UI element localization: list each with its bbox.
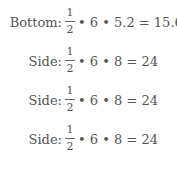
- fraction-bar: [65, 138, 75, 139]
- denominator: 2: [65, 140, 75, 154]
- row-label: Side:: [29, 55, 62, 69]
- denominator: 2: [65, 62, 75, 76]
- row-label: Side:: [29, 133, 62, 147]
- denominator: 2: [65, 101, 75, 115]
- row-label: Side:: [29, 94, 62, 108]
- area-row-bottom: Bottom: 1 2 • 6 • 5.2 = 15.6: [0, 6, 177, 42]
- row-expression: • 6 • 8 = 24: [78, 94, 158, 108]
- fraction-one-half: 1 2: [65, 45, 75, 76]
- fraction-one-half: 1 2: [65, 84, 75, 115]
- area-row-side-2: Side: 1 2 • 6 • 8 = 24: [0, 84, 177, 120]
- fraction-bar: [65, 21, 75, 22]
- fraction-one-half: 1 2: [65, 123, 75, 154]
- fraction-bar: [65, 99, 75, 100]
- row-expression: • 6 • 8 = 24: [78, 133, 158, 147]
- numerator: 1: [65, 84, 75, 98]
- area-row-side-3: Side: 1 2 • 6 • 8 = 24: [0, 123, 177, 159]
- row-expression: • 6 • 8 = 24: [78, 55, 158, 69]
- denominator: 2: [65, 23, 75, 37]
- row-expression: • 6 • 5.2 = 15.6: [78, 16, 177, 30]
- numerator: 1: [65, 45, 75, 59]
- fraction-bar: [65, 60, 75, 61]
- numerator: 1: [65, 6, 75, 20]
- row-label: Bottom:: [10, 16, 62, 30]
- area-row-side-1: Side: 1 2 • 6 • 8 = 24: [0, 45, 177, 81]
- numerator: 1: [65, 123, 75, 137]
- fraction-one-half: 1 2: [65, 6, 75, 37]
